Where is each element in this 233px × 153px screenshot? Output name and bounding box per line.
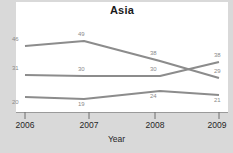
data-label-s2-2008: 30 <box>150 66 157 73</box>
series-line-1 <box>25 41 219 78</box>
data-label-s2-2007: 30 <box>78 66 85 73</box>
data-label-s1-2007: 49 <box>78 31 85 38</box>
data-label-s3-2009: 21 <box>214 97 221 104</box>
series-line-3 <box>25 91 219 99</box>
x-axis-label-2006: 2006 <box>16 120 35 130</box>
data-label-s2-2006: 31 <box>12 65 19 72</box>
data-label-s3-2007: 19 <box>78 101 85 108</box>
line-chart-canvas <box>0 0 233 153</box>
data-label-s1-2008: 38 <box>150 50 157 57</box>
data-label-s3-2008: 24 <box>150 93 157 100</box>
data-label-s1-2006: 46 <box>12 36 19 43</box>
x-axis-title: Year <box>0 134 233 144</box>
x-axis-label-2009: 2009 <box>208 120 227 130</box>
data-label-s1-2009: 29 <box>214 68 221 75</box>
x-axis-label-2007: 2007 <box>80 120 99 130</box>
data-label-s3-2006: 20 <box>12 99 19 106</box>
x-axis-label-2008: 2008 <box>146 120 165 130</box>
data-label-s2-2009: 38 <box>214 52 221 59</box>
